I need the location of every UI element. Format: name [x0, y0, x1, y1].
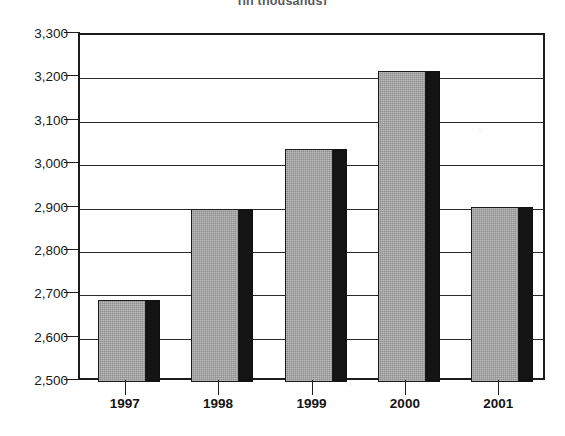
y-axis-label-3100: 3,100 [10, 112, 68, 127]
x-axis-label-1999: 1999 [272, 396, 352, 411]
y-axis-label-2600: 2,600 [10, 329, 68, 344]
y-axis-tick-3100 [64, 119, 80, 120]
y-axis-tick-3200 [64, 75, 80, 76]
bar-shadow-1998 [239, 209, 253, 382]
y-axis-label-3200: 3,200 [10, 69, 68, 84]
y-axis-label-2900: 2,900 [10, 199, 68, 214]
x-axis-tick-2001 [498, 380, 499, 395]
x-axis-label-2000: 2000 [365, 396, 445, 411]
bar-1999[interactable] [285, 149, 347, 382]
bar-shadow-2000 [426, 71, 440, 382]
gridline-3200 [80, 78, 543, 79]
y-axis-tick-3000 [64, 162, 80, 163]
y-axis-tick-2800 [64, 249, 80, 250]
x-axis-label-2001: 2001 [458, 396, 538, 411]
x-axis-label-1997: 1997 [85, 396, 165, 411]
y-axis-label-2800: 2,800 [10, 242, 68, 257]
x-axis-label-1998: 1998 [178, 396, 258, 411]
y-axis-label-3000: 3,000 [10, 156, 68, 171]
bar-1997[interactable] [98, 300, 160, 382]
bar-face-1998 [191, 209, 239, 382]
y-axis-label-2700: 2,700 [10, 286, 68, 301]
bar-shadow-1999 [333, 149, 347, 382]
y-axis-tick-2500 [64, 379, 80, 380]
bar-2000[interactable] [378, 71, 440, 382]
y-axis-label-3300: 3,300 [10, 26, 68, 41]
bar-1998[interactable] [191, 209, 253, 382]
bar-shadow-2001 [519, 207, 533, 382]
y-axis-tick-2900 [64, 206, 80, 207]
y-axis-tick-3300 [64, 32, 80, 33]
bar-chart: 3,3003,2003,1003,0002,9002,8002,7002,600… [0, 0, 565, 436]
bar-face-2001 [471, 207, 519, 382]
bar-face-2000 [378, 71, 426, 382]
y-axis-tick-2700 [64, 292, 80, 293]
y-axis-tick-2600 [64, 336, 80, 337]
x-axis-tick-1998 [218, 380, 219, 395]
x-axis-tick-1997 [125, 380, 126, 395]
x-axis-tick-2000 [405, 380, 406, 395]
y-axis-label-2500: 2,500 [10, 373, 68, 388]
plot-frame [78, 33, 545, 380]
bar-2001[interactable] [471, 207, 533, 382]
gridline-3100 [80, 122, 543, 123]
bar-shadow-1997 [146, 300, 160, 382]
bar-face-1999 [285, 149, 333, 382]
x-axis-tick-1999 [312, 380, 313, 395]
bar-face-1997 [98, 300, 146, 382]
